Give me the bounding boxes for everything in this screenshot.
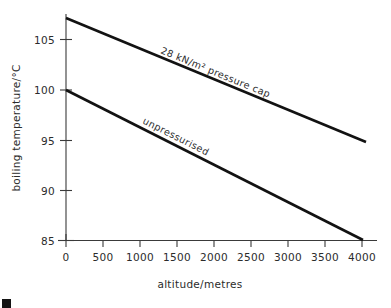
series-line-unpressurised [66,90,363,240]
x-tick-label-3000: 3000 [274,251,302,263]
x-tick-label-0: 0 [63,251,70,263]
page-corner-mark [2,299,11,308]
x-tick-label-2000: 2000 [200,251,228,263]
y-tick-label-100: 100 [34,84,55,96]
series-annotation-unpressurised: unpressurised [141,115,211,158]
x-tick-label-500: 500 [93,251,114,263]
y-tick-label-85: 85 [41,235,55,247]
x-tick-label-2500: 2500 [237,251,265,263]
y-tick-label-95: 95 [41,135,55,147]
x-axis-title: altitude/metres [157,278,242,290]
x-tick-label-4000: 4000 [348,251,376,263]
x-tick-label-1500: 1500 [163,251,191,263]
x-tick-label-1000: 1000 [126,251,154,263]
y-tick-label-90: 90 [41,185,55,197]
boiling-point-altitude-chart: 105 100 95 90 85 0 500 1000 1500 2000 25… [0,0,391,308]
series-annotation-pressure-cap: 28 kN/m² pressure cap [159,45,272,100]
series-line-pressure-cap [66,18,366,142]
x-tick-label-3500: 3500 [311,251,339,263]
chart-plot-area: 105 100 95 90 85 0 500 1000 1500 2000 25… [0,0,391,308]
y-tick-label-105: 105 [34,34,55,46]
y-axis-title: boiling temperature/°C [10,64,22,191]
